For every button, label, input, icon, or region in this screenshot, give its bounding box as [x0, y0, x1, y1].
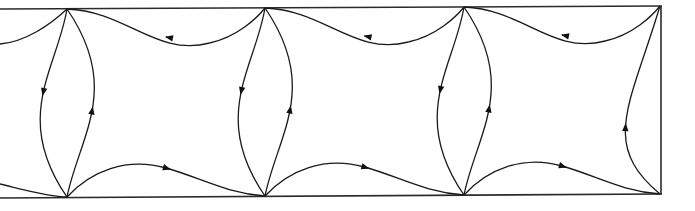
arrowhead-icon — [485, 105, 491, 113]
arrowhead-icon — [561, 33, 569, 39]
cell-0-left-outer-curve — [40, 9, 67, 197]
stub-bottom-left-curve — [0, 184, 67, 197]
frame-bottom-line — [0, 194, 662, 198]
right-edge-curve — [625, 6, 660, 194]
arrowhead-icon — [361, 163, 370, 169]
cell-1-bottom-curve-a — [265, 163, 365, 196]
cell-1-top-curve-a — [265, 8, 408, 45]
flow-diagram — [0, 0, 695, 211]
cell-1-top-curve-b — [408, 7, 464, 42]
arrowhead-icon — [558, 162, 567, 168]
arrowhead-icon — [364, 34, 372, 40]
cell-0-bottom-curve-b — [166, 168, 265, 196]
arrowhead-icon — [438, 85, 444, 93]
arrowhead-icon — [162, 164, 171, 170]
cell-1-left-inner-curve — [265, 8, 292, 196]
arrowhead-icon — [622, 123, 628, 131]
cell-2-top-curve-b — [605, 6, 660, 41]
cell-0-top-curve-b — [210, 8, 265, 43]
cell-0-top-curve-a — [67, 9, 210, 46]
cell-2-left-outer-curve — [437, 7, 464, 195]
cell-2-bottom-curve-a — [464, 162, 562, 195]
cell-2-left-inner-curve — [464, 7, 491, 195]
arrowhead-icon — [41, 87, 47, 95]
cell-0-bottom-curve-a — [67, 164, 166, 197]
cell-0-left-inner-curve — [67, 9, 94, 197]
cell-1-left-outer-curve — [238, 8, 265, 196]
arrowhead-icon — [239, 86, 245, 94]
frame-top-line — [0, 6, 662, 9]
arrowhead-icon — [88, 107, 94, 115]
arrowhead-icon — [286, 106, 292, 114]
flow-curves — [0, 6, 660, 197]
arrowheads — [41, 33, 628, 170]
cell-2-top-curve-a — [464, 7, 605, 44]
stub-top-left-curve — [0, 9, 67, 44]
arrowhead-icon — [165, 35, 173, 41]
cell-1-bottom-curve-b — [365, 167, 465, 195]
